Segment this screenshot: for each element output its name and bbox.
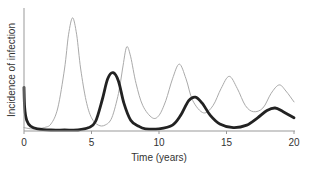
x-tick-label: 20	[288, 137, 300, 148]
y-axis-title: Incidence of infection	[6, 23, 17, 117]
series-thick-line	[24, 73, 294, 131]
x-ticks: 05101520	[21, 131, 300, 148]
x-tick-label: 10	[153, 137, 165, 148]
x-tick-label: 5	[89, 137, 95, 148]
x-axis-title: Time (years)	[131, 152, 187, 163]
series-thin-line	[24, 18, 294, 129]
line-chart: 05101520 Time (years) Incidence of infec…	[0, 0, 309, 174]
plot-lines	[24, 18, 294, 130]
x-tick-label: 15	[221, 137, 233, 148]
x-tick-label: 0	[21, 137, 27, 148]
